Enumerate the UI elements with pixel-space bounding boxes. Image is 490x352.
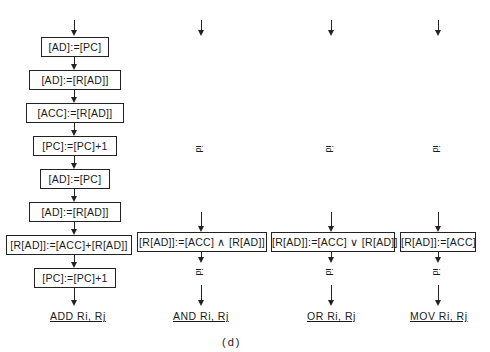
id-marker: id xyxy=(324,145,334,152)
instruction-label: ADD Ri, Rj xyxy=(50,310,106,322)
arrow-down-icon xyxy=(328,30,334,36)
id-marker: id xyxy=(194,268,204,275)
step-box: [PC]:=[PC]+1 xyxy=(33,136,117,156)
arrow-down-icon xyxy=(198,257,204,263)
arrow-down-icon xyxy=(198,300,204,306)
step-box: [R[AD]]:=[ACC] ∧ [R[AD]] xyxy=(137,232,267,252)
id-marker: id xyxy=(194,145,204,152)
arrow-down-icon xyxy=(328,257,334,263)
step-box: [R[AD]]:=[ACC] ∨ [R[AD]] xyxy=(271,232,395,252)
step-box: [ACC]:=[R[AD]] xyxy=(26,103,124,123)
step-box: [AD]:=[R[AD]] xyxy=(29,202,121,222)
step-box: [AD]:=[PC] xyxy=(40,169,110,189)
instruction-label: OR Ri, Rj xyxy=(307,310,356,322)
id-marker: id xyxy=(324,268,334,275)
step-box: [R[AD]]:=[ACC]+[R[AD]] xyxy=(6,235,132,255)
arrow-down-icon xyxy=(198,30,204,36)
figure-caption: (d) xyxy=(222,336,241,348)
instruction-label: MOV Ri, Rj xyxy=(410,310,468,322)
arrow-down-icon xyxy=(435,300,441,306)
arrow-down-icon xyxy=(71,30,77,36)
arrow-down-icon xyxy=(328,300,334,306)
arrow-down-icon xyxy=(435,30,441,36)
arrow-down-icon xyxy=(71,300,77,306)
step-box: [R[AD]]:=[ACC] xyxy=(400,232,476,252)
step-box: [AD]:=[R[AD]] xyxy=(29,70,121,90)
arrow-down-icon xyxy=(435,257,441,263)
id-marker: id xyxy=(431,268,441,275)
instruction-label: AND Ri, Rj xyxy=(173,310,229,322)
step-box: [AD]:=[PC] xyxy=(41,37,109,57)
id-marker: id xyxy=(431,145,441,152)
step-box: [PC]:=[PC]+1 xyxy=(34,268,116,288)
